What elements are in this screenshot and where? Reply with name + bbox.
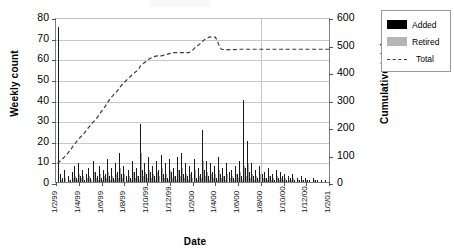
legend-item-total: Total bbox=[387, 50, 446, 67]
legend: Added Retired Total bbox=[381, 10, 451, 72]
cropped-title-artifact bbox=[150, 0, 210, 7]
legend-item-retired: Retired bbox=[387, 33, 446, 50]
y-right-tick-label: 300 bbox=[337, 95, 367, 106]
x-tick-label: 1/6/00 bbox=[232, 191, 241, 213]
y-right-tick-label: 600 bbox=[337, 12, 367, 23]
y-left-tick-label: 10 bbox=[23, 156, 49, 167]
x-tick-label: 1/6/99 bbox=[96, 191, 105, 213]
y-left-tick-label: 40 bbox=[23, 95, 49, 106]
x-tick-label: 1/12/99 bbox=[164, 186, 173, 213]
total-line-series bbox=[56, 19, 331, 184]
y-left-tick-label: 50 bbox=[23, 74, 49, 85]
legend-item-added: Added bbox=[387, 16, 446, 33]
x-tick-label: 1/4/99 bbox=[73, 191, 82, 213]
y-axis-left-title: Weekly count bbox=[9, 42, 20, 126]
y-right-tick-label: 400 bbox=[337, 67, 367, 78]
plot-area bbox=[55, 18, 330, 183]
y-left-tick-label: 80 bbox=[23, 12, 49, 23]
x-tick-label: 1/2/01 bbox=[323, 191, 332, 213]
y-right-tick-label: 0 bbox=[337, 177, 367, 188]
y-right-tick-label: 200 bbox=[337, 122, 367, 133]
x-tick-label: 1/8/00 bbox=[255, 191, 264, 213]
legend-swatch-total-icon bbox=[387, 59, 407, 60]
chart-figure: Weekly count Cumulative total Date 80706… bbox=[0, 0, 454, 252]
x-tick-label: 1/10/99 bbox=[141, 186, 150, 213]
x-tick-label: 1/10/00 bbox=[278, 186, 287, 213]
x-tick-label: 1/8/99 bbox=[118, 191, 127, 213]
y-left-tick-label: 20 bbox=[23, 136, 49, 147]
legend-swatch-retired-icon bbox=[387, 37, 407, 46]
y-left-tick-label: 30 bbox=[23, 115, 49, 126]
y-right-tick-label: 500 bbox=[337, 40, 367, 51]
legend-label-added: Added bbox=[412, 20, 437, 30]
x-tick-label: 1/12/00 bbox=[300, 186, 309, 213]
x-tick-label: 1/4/00 bbox=[209, 191, 218, 213]
y-left-tick-label: 60 bbox=[23, 53, 49, 64]
x-axis-title: Date bbox=[110, 236, 280, 247]
legend-label-total: Total bbox=[412, 54, 434, 64]
y-right-tick-label: 100 bbox=[337, 150, 367, 161]
y-left-tick-label: 0 bbox=[23, 177, 49, 188]
legend-label-retired: Retired bbox=[412, 37, 439, 47]
x-tick-label: 1/2/99 bbox=[50, 191, 59, 213]
legend-swatch-added-icon bbox=[387, 20, 407, 29]
x-tick-label: 1/2/00 bbox=[187, 191, 196, 213]
y-left-tick-label: 70 bbox=[23, 33, 49, 44]
